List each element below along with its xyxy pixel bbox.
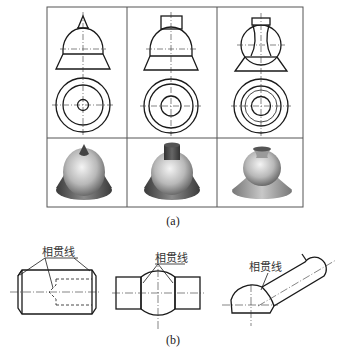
center-lines-front-2 (146, 12, 196, 73)
leader-lines-b1 (20, 258, 90, 288)
label-intersection-line-1: 相贯线 (42, 245, 75, 259)
render-cylinder-top (144, 143, 200, 201)
label-intersection-line-2: 相贯线 (155, 251, 188, 265)
leader-lines-b2 (143, 264, 185, 283)
caption-b: (b) (166, 333, 180, 348)
render-hollow-neck (232, 147, 292, 200)
figure-canvas: 相贯线 相贯线 相贯线 (0, 0, 345, 352)
center-lines-front-1 (60, 12, 106, 72)
render-cone-top (56, 144, 112, 200)
leader-line-b3 (261, 273, 268, 290)
center-lines-b2 (112, 256, 204, 330)
label-intersection-line-3: 相贯线 (249, 260, 282, 274)
center-lines-top-3 (231, 76, 291, 136)
caption-a: (a) (166, 214, 179, 229)
center-lines-top-1 (52, 74, 114, 136)
